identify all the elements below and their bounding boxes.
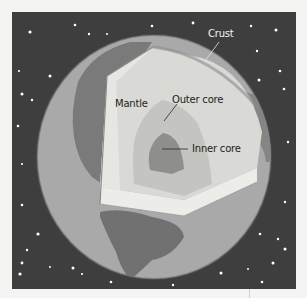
label-mantle: Mantle	[115, 98, 148, 109]
label-inner-core: Inner core	[192, 143, 241, 154]
divider-line	[249, 289, 250, 298]
label-crust: Crust	[208, 28, 234, 39]
earth-cross-section-illustration	[12, 12, 296, 289]
illustration-panel: Crust Mantle Outer core Inner core	[12, 12, 296, 289]
label-outer-core: Outer core	[172, 94, 223, 105]
